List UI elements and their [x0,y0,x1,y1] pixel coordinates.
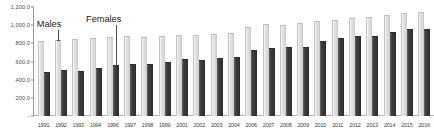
bar-group [381,0,398,116]
x-axis-tick-label: 1997 [121,117,138,133]
x-axis-tick-label: 2013 [364,117,381,133]
bar-group [398,0,415,116]
bar-group [156,0,173,116]
bar-group [329,0,346,116]
y-axis-tick-label: 400.0 [16,77,31,83]
bar-group [35,0,52,116]
bar-females [182,59,188,116]
bar-group [294,0,311,116]
x-axis-labels: 1991199219931994199619971998199920012002… [34,117,434,133]
series-annotation-label: Females [86,14,121,24]
bar-females [234,57,240,116]
x-axis-tick-label: 2014 [381,117,398,133]
y-axis-tick-label: 800.0 [16,40,31,46]
bar-females [407,29,413,116]
bar-females [303,47,309,116]
bar-females [61,70,67,116]
bar-group [364,0,381,116]
bar-females [390,32,396,116]
bar-group [243,0,260,116]
bar-group [312,0,329,116]
bar-females [130,64,136,116]
x-axis-tick-label: 2010 [312,117,329,133]
bar-females [372,36,378,116]
bar-group [260,0,277,116]
bar-females [424,29,430,116]
bar-group [346,0,363,116]
x-axis-tick-label: 1998 [139,117,156,133]
x-axis-tick-label: 2006 [243,117,260,133]
series-annotation-leader-line [58,30,59,40]
bar-females [147,64,153,116]
bar-group [416,0,433,116]
x-axis-tick-label: 1996 [104,117,121,133]
y-axis-tick-label: 600.0 [16,59,31,65]
bar-group [208,0,225,116]
bar-females [165,62,171,117]
bar-females [96,68,102,116]
x-axis-tick-label: 2004 [225,117,242,133]
bar-group [191,0,208,116]
x-axis-tick-label: 2011 [329,117,346,133]
y-axis-tick-label: 1,200.0 [11,4,30,10]
y-axis-tick-label: 1,000.0 [11,22,30,28]
y-axis: -200.0400.0600.0800.01,000.01,200.0 [0,0,34,133]
x-axis-tick-label: 1999 [156,117,173,133]
bar-females [113,65,119,116]
bar-group [225,0,242,116]
bar-group [121,0,138,116]
series-annotation-label: Males [37,19,62,29]
bar-females [320,41,326,116]
bar-females [78,71,84,116]
bar-females [44,72,50,117]
x-axis-tick-label: 1992 [52,117,69,133]
bar-females [251,50,257,116]
bar-females [355,36,361,116]
bar-group [173,0,190,116]
x-axis-tick-label: 1994 [87,117,104,133]
bar-chart: -200.0400.0600.0800.01,000.01,200.0 1991… [0,0,434,133]
bar-females [269,48,275,116]
x-axis-tick-label: 2016 [416,117,433,133]
bar-females [199,60,205,116]
bar-group [139,0,156,116]
bar-females [338,38,344,116]
x-axis-tick-label: 2009 [294,117,311,133]
y-axis-tick-label: 200.0 [16,95,31,101]
series-annotation-leader-line [116,25,117,65]
bar-group [277,0,294,116]
series-annotation-leader-cap [115,65,118,66]
series-annotation-leader-cap [57,40,60,41]
x-axis-tick-label: 2012 [346,117,363,133]
x-axis-tick-label: 2007 [260,117,277,133]
x-axis-tick-label: 2001 [173,117,190,133]
bar-females [286,47,292,116]
x-axis-tick-label: 2002 [191,117,208,133]
y-axis-tick-label: - [28,113,30,119]
bar-group [52,0,69,116]
x-axis-tick-label: 1993 [70,117,87,133]
x-axis-tick-label: 2008 [277,117,294,133]
x-axis-tick-label: 2015 [398,117,415,133]
x-axis-tick-label: 2003 [208,117,225,133]
bar-females [217,58,223,116]
bar-group [70,0,87,116]
x-axis-tick-label: 1991 [35,117,52,133]
